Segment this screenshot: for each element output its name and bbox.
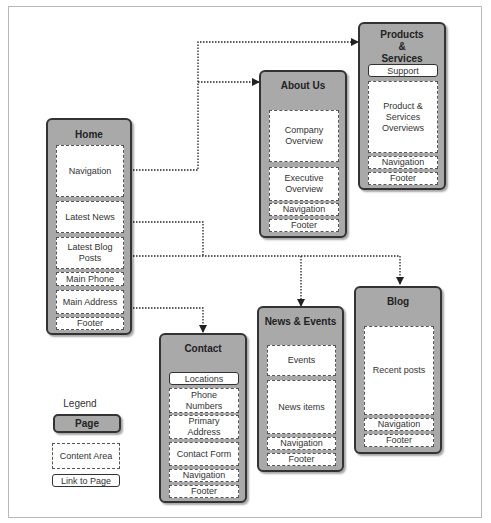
page-blog: Blog Recent posts Navigation Footer [354, 286, 442, 454]
content-area-footer: Footer [368, 172, 438, 185]
content-area-events: Events [267, 345, 336, 376]
content-area-primary-address: Primary Address [169, 415, 239, 439]
content-area-product-services-overviews: Product & Services Overviews [368, 81, 438, 153]
content-area-latest-news: Latest News [56, 201, 124, 233]
content-area-footer: Footer [267, 453, 336, 466]
content-area-navigation: Navigation [267, 437, 336, 450]
legend-link-to-page-swatch: Link to Page [52, 474, 120, 487]
link-support[interactable]: Support [368, 64, 438, 77]
content-area-contact-form: Contact Form [169, 442, 239, 466]
link-locations[interactable]: Locations [169, 372, 239, 385]
page-title-products-services: Products & Services [360, 29, 444, 65]
page-about-us: About Us Company Overview Executive Over… [259, 70, 347, 238]
content-area-footer: Footer [364, 434, 434, 447]
content-area-footer: Footer [56, 317, 124, 330]
page-products-services: Products & Services Support Product & Se… [358, 22, 446, 190]
content-area-news-items: News items [267, 380, 336, 434]
content-area-navigation: Navigation [56, 145, 124, 197]
content-area-main-address: Main Address [56, 290, 124, 314]
page-news-events: News & Events Events News items Navigati… [257, 306, 344, 472]
legend-content-area-swatch: Content Area [52, 443, 120, 469]
content-area-navigation: Navigation [269, 203, 339, 216]
content-area-company-overview: Company Overview [269, 110, 339, 162]
content-area-main-phone: Main Phone [56, 272, 124, 286]
content-area-footer: Footer [269, 219, 339, 232]
page-title-blog: Blog [356, 296, 440, 308]
page-home: Home Navigation Latest News Latest Blog … [46, 118, 132, 335]
content-area-footer: Footer [169, 485, 239, 498]
content-area-recent-posts: Recent posts [364, 326, 434, 415]
page-title-home: Home [48, 129, 130, 141]
content-area-navigation: Navigation [169, 469, 239, 482]
page-title-contact: Contact [161, 343, 245, 355]
content-area-navigation: Navigation [368, 156, 438, 169]
content-area-latest-blog-posts: Latest Blog Posts [56, 237, 124, 269]
content-area-navigation: Navigation [364, 418, 434, 431]
content-area-phone-numbers: Phone Numbers [169, 388, 239, 413]
page-contact: Contact Locations Phone Numbers Primary … [159, 333, 247, 503]
page-title-news-events: News & Events [259, 316, 342, 328]
legend-page-label: Page [55, 418, 119, 430]
page-title-about-us: About Us [261, 80, 345, 92]
legend-title: Legend [50, 398, 110, 409]
legend-page-swatch: Page [53, 414, 121, 433]
content-area-executive-overview: Executive Overview [269, 167, 339, 201]
